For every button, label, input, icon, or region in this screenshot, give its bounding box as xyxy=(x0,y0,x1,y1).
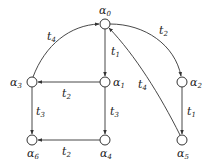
node-label-a0: α0 xyxy=(99,4,111,18)
node-label-a1: α1 xyxy=(113,76,125,90)
node-label-a5: α5 xyxy=(177,147,189,161)
node-a1 xyxy=(100,77,110,87)
node-a2 xyxy=(177,77,187,87)
edge-label-a0-a2: t2 xyxy=(159,24,168,38)
edge-label-a1-a4: t3 xyxy=(110,105,119,119)
edge-label-a4-a6: t2 xyxy=(62,145,71,159)
state-graph: α0 α1 α2 α3 α4 α5 α6 t4 t2 t1 t2 t3 t3 t… xyxy=(0,0,210,166)
edge-label-a5-a0: t4 xyxy=(138,78,147,92)
edge-a0-a2 xyxy=(110,24,181,76)
node-a3 xyxy=(27,77,37,87)
edge-label-a3-a6: t3 xyxy=(36,105,45,119)
node-a5 xyxy=(177,135,187,145)
node-a4 xyxy=(100,135,110,145)
node-label-a4: α4 xyxy=(100,147,112,161)
edge-a3-a0 xyxy=(33,24,99,77)
edge-label-a2-a5: t1 xyxy=(187,105,196,119)
edge-label-a3-a0: t4 xyxy=(47,30,56,44)
node-a0 xyxy=(100,19,110,29)
node-label-a2: α2 xyxy=(190,76,202,90)
node-label-a6: α6 xyxy=(27,147,39,161)
node-a6 xyxy=(27,135,37,145)
node-label-a3: α3 xyxy=(10,76,22,90)
edge-label-a0-a1: t1 xyxy=(111,45,120,59)
edge-label-a1-a3: t2 xyxy=(62,87,71,101)
